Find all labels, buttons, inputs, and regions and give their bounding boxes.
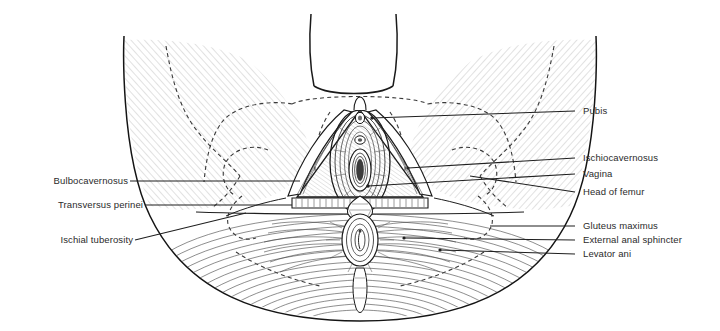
label-bulbocavernosus: Bulbocavernosus [54,175,128,186]
leader-pubis [372,111,575,118]
leader-levator-ani [440,250,575,254]
label-levator-ani: Levator ani [583,248,631,259]
leader-ischiocavernosus [408,158,575,168]
label-vagina: Vagina [583,168,612,179]
label-head-of-femur: Head of femur [583,186,645,197]
leader-ischial-tuberosity [135,213,246,240]
label-ischial-tuberosity: Ischial tuberosity [60,234,133,245]
figure-canvas: Bulbocavernosus Transversus perinei Isch… [0,0,720,331]
label-pubis: Pubis [583,105,607,116]
label-gluteus-maximus: Gluteus maximus [583,220,658,231]
label-transversus-perinei: Transversus perinei [58,199,143,210]
leader-head-of-femur [470,176,575,192]
leader-external-anal-sphincter [404,238,575,240]
label-external-anal-sphincter: External anal sphincter [583,234,682,245]
leader-lines [0,0,720,331]
label-ischiocavernosus: Ischiocavernosus [583,152,658,163]
